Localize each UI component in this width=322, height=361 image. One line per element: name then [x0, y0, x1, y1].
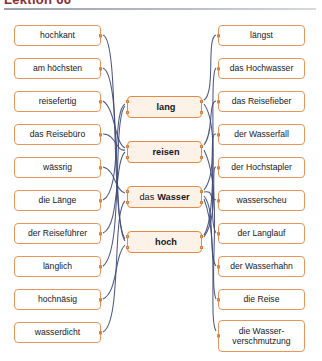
anchor-nub[interactable]	[217, 232, 220, 235]
left-word-box[interactable]: wasserdicht	[14, 322, 101, 343]
connector-reisefuehrer-reisen	[103, 152, 125, 233]
right-word-label-multiline: die Wasser- verschmutzung	[232, 326, 290, 347]
anchor-nub[interactable]	[200, 111, 203, 114]
right-word-box[interactable]: das Reisefieber	[218, 91, 305, 112]
connector-wasserdicht-wasser	[103, 201, 125, 332]
right-word-box[interactable]: längst	[218, 25, 305, 46]
connector-hochkant-hoch	[103, 35, 125, 239]
right-word-box[interactable]: der Wasserhahn	[218, 256, 305, 277]
left-word-box[interactable]: das Reisebüro	[14, 124, 101, 145]
left-word-label: das Reisebüro	[30, 129, 85, 140]
anchor-nub[interactable]	[126, 190, 129, 193]
anchor-nub[interactable]	[200, 156, 203, 159]
anchor-nub[interactable]	[99, 133, 102, 136]
right-word-label: der Hochstapler	[231, 162, 292, 173]
left-word-box[interactable]: am höchsten	[14, 58, 101, 79]
right-word-label-line2: verschmutzung	[232, 336, 290, 346]
anchor-nub[interactable]	[217, 199, 220, 202]
right-word-label: das Hochwasser	[230, 63, 294, 74]
connector-hoch-hochstapler	[204, 167, 216, 237]
connector-laenge-lang	[103, 104, 125, 200]
connector-waessrig-wasser	[103, 167, 125, 193]
anchor-nub[interactable]	[200, 145, 203, 148]
anchor-nub[interactable]	[200, 246, 203, 249]
left-word-label: wässrig	[43, 162, 72, 173]
anchor-nub[interactable]	[217, 67, 220, 70]
anchor-nub[interactable]	[126, 100, 129, 103]
page-header: Lektion 66	[0, 0, 322, 14]
anchor-nub[interactable]	[99, 34, 102, 37]
connector-reisefertig-reisen	[103, 101, 125, 148]
left-word-label: die Länge	[39, 195, 77, 206]
connector-lang-langlauf	[204, 104, 216, 233]
anchor-nub[interactable]	[99, 67, 102, 70]
connector-wasser-verschmutzung	[204, 199, 216, 331]
left-word-box[interactable]: die Länge	[14, 190, 101, 211]
anchor-nub[interactable]	[200, 201, 203, 204]
connector-wasser-wasserscheu	[204, 192, 216, 200]
left-word-box[interactable]: der Reiseführer	[14, 223, 101, 244]
anchor-nub[interactable]	[99, 166, 102, 169]
center-root-box[interactable]: das Wasser	[127, 186, 202, 208]
center-article: das	[139, 192, 154, 203]
anchor-nub[interactable]	[217, 34, 220, 37]
right-word-box[interactable]: das Hochwasser	[218, 58, 305, 79]
anchor-nub[interactable]	[126, 111, 129, 114]
left-word-box[interactable]: länglich	[14, 256, 101, 277]
right-word-box[interactable]: wasserscheu	[218, 190, 305, 211]
anchor-nub[interactable]	[217, 100, 220, 103]
anchor-nub[interactable]	[217, 166, 220, 169]
right-word-box[interactable]: die Reise	[218, 289, 305, 310]
right-word-label: die Reise	[244, 294, 280, 305]
anchor-nub[interactable]	[200, 190, 203, 193]
center-root-box[interactable]: reisen	[127, 141, 202, 163]
anchor-nub[interactable]	[99, 100, 102, 103]
right-word-label: der Langlauf	[238, 228, 286, 239]
center-root-label: hoch	[155, 237, 177, 248]
anchor-nub[interactable]	[99, 331, 102, 334]
connector-laenglich-lang	[103, 106, 125, 266]
right-word-label: wasserscheu	[236, 195, 286, 206]
anchor-nub[interactable]	[217, 334, 220, 337]
left-word-box[interactable]: hochnäsig	[14, 289, 101, 310]
left-word-box[interactable]: hochkant	[14, 25, 101, 46]
right-word-label-line1: die Wasser-	[239, 326, 285, 336]
left-word-label: länglich	[43, 261, 72, 272]
anchor-nub[interactable]	[126, 246, 129, 249]
anchor-nub[interactable]	[200, 100, 203, 103]
right-word-box[interactable]: die Wasser- verschmutzung	[218, 320, 305, 352]
center-root-box[interactable]: hoch	[127, 231, 202, 253]
left-word-label: wasserdicht	[35, 327, 80, 338]
right-word-box[interactable]: der Wasserfall	[218, 124, 305, 145]
anchor-nub[interactable]	[217, 298, 220, 301]
right-word-box[interactable]: der Langlauf	[218, 223, 305, 244]
anchor-nub[interactable]	[126, 145, 129, 148]
center-root-box[interactable]: lang	[127, 96, 202, 118]
anchor-nub[interactable]	[217, 265, 220, 268]
connector-hochnaesig-hoch	[103, 245, 125, 299]
anchor-nub[interactable]	[200, 235, 203, 238]
connector-reisebuero-reisen	[103, 134, 125, 150]
header-divider	[4, 8, 316, 10]
left-word-label: am höchsten	[33, 63, 82, 74]
right-word-label: der Wasserhahn	[230, 261, 293, 272]
anchor-nub[interactable]	[99, 265, 102, 268]
anchor-nub[interactable]	[99, 232, 102, 235]
anchor-nub[interactable]	[126, 235, 129, 238]
left-word-box[interactable]: reisefertig	[14, 91, 101, 112]
connector-reisen-reisefieber	[204, 101, 216, 145]
connector-wasser-wasserfall	[204, 134, 216, 190]
connector-hoch-hochwasser	[204, 68, 216, 235]
anchor-nub[interactable]	[99, 298, 102, 301]
anchor-nub[interactable]	[99, 199, 102, 202]
anchor-nub[interactable]	[217, 133, 220, 136]
right-word-label: das Reisefieber	[232, 96, 292, 107]
left-word-box[interactable]: wässrig	[14, 157, 101, 178]
left-word-label: der Reiseführer	[28, 228, 87, 239]
center-root-label: Wasser	[157, 192, 189, 203]
right-word-box[interactable]: der Hochstapler	[218, 157, 305, 178]
connector-wasser-wasserhahn	[204, 196, 216, 266]
anchor-nub[interactable]	[126, 201, 129, 204]
connector-reisen-reise	[204, 150, 216, 299]
anchor-nub[interactable]	[126, 156, 129, 159]
